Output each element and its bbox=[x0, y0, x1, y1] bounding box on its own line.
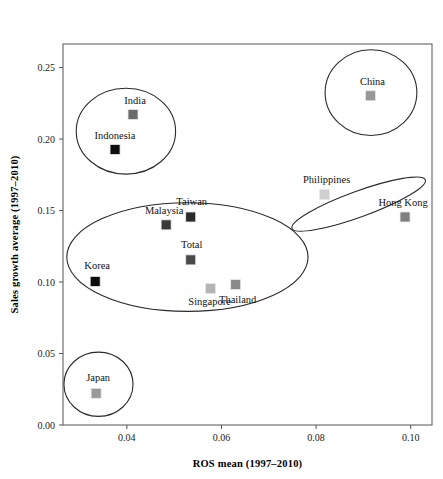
y-tick-label: 0.10 bbox=[38, 277, 56, 288]
plot-border bbox=[63, 44, 432, 425]
data-point-label-hong-kong: Hong Kong bbox=[378, 197, 428, 208]
data-point-label-malaysia: Malaysia bbox=[145, 205, 184, 216]
x-tick-label: 0.10 bbox=[402, 432, 420, 443]
point-labels: IndiaIndonesiaChinaPhilippinesHong KongT… bbox=[84, 76, 428, 384]
data-point-marker-korea bbox=[90, 276, 100, 286]
cluster-ellipses bbox=[64, 50, 430, 417]
plot-frame bbox=[63, 44, 432, 425]
data-point-marker-singapore bbox=[206, 283, 216, 293]
data-point-marker-total bbox=[186, 255, 196, 265]
data-point-marker-hong-kong bbox=[400, 212, 410, 222]
data-point-marker-india bbox=[128, 109, 138, 119]
data-points bbox=[90, 91, 410, 399]
data-point-label-japan: Japan bbox=[86, 372, 111, 383]
y-tick-label: 0.25 bbox=[38, 62, 56, 73]
x-axis-title: ROS mean (1997–2010) bbox=[193, 458, 303, 470]
data-point-label-philippines: Philippines bbox=[303, 174, 350, 185]
axis-ticks: 0.040.060.080.100.000.050.100.150.200.25 bbox=[38, 62, 420, 443]
scatter-chart-figure: 0.040.060.080.100.000.050.100.150.200.25… bbox=[0, 0, 443, 479]
data-point-marker-taiwan bbox=[186, 212, 196, 222]
y-tick-label: 0.00 bbox=[38, 420, 56, 431]
data-point-marker-malaysia bbox=[161, 220, 171, 230]
data-point-label-korea: Korea bbox=[84, 260, 110, 271]
data-point-marker-china bbox=[366, 91, 376, 101]
data-point-marker-japan bbox=[91, 388, 101, 398]
japan-cluster bbox=[64, 352, 133, 416]
data-point-marker-thailand bbox=[231, 280, 241, 290]
data-point-label-total: Total bbox=[181, 239, 203, 250]
x-tick-label: 0.06 bbox=[213, 432, 231, 443]
data-point-marker-philippines bbox=[320, 189, 330, 199]
x-tick-label: 0.08 bbox=[307, 432, 325, 443]
y-tick-label: 0.05 bbox=[38, 348, 56, 359]
y-axis-title: Sales growth average (1997–2010) bbox=[9, 155, 21, 313]
data-point-label-indonesia: Indonesia bbox=[95, 130, 136, 141]
plot-canvas: 0.040.060.080.100.000.050.100.150.200.25… bbox=[0, 0, 443, 479]
data-point-marker-indonesia bbox=[110, 145, 120, 155]
x-tick-label: 0.04 bbox=[118, 432, 136, 443]
data-point-label-india: India bbox=[124, 95, 146, 106]
y-tick-label: 0.15 bbox=[38, 205, 56, 216]
y-tick-label: 0.20 bbox=[38, 134, 56, 145]
data-point-label-thailand: Thailand bbox=[219, 294, 257, 305]
data-point-label-china: China bbox=[360, 76, 385, 87]
